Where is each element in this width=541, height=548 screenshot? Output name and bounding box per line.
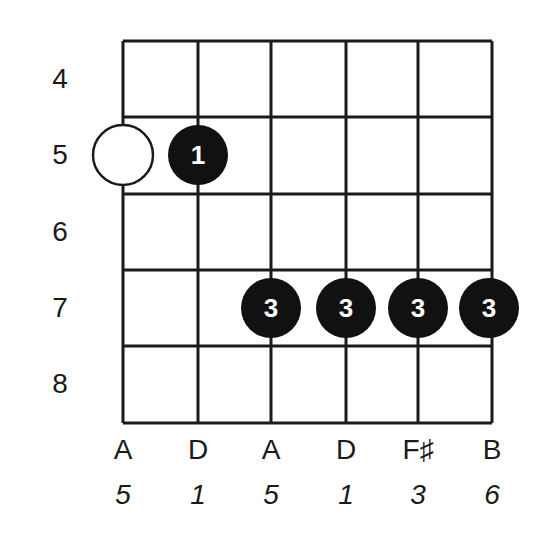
- fret-number: 5: [40, 141, 80, 169]
- string-interval: 1: [168, 481, 228, 509]
- finger-label: 3: [398, 295, 438, 321]
- string-note: A: [241, 436, 301, 464]
- string-note: B: [462, 436, 522, 464]
- open-circle-marker: [93, 125, 153, 185]
- finger-label: 1: [178, 142, 218, 168]
- string-interval: 1: [316, 481, 376, 509]
- string-interval: 3: [388, 481, 448, 509]
- finger-label: 3: [469, 295, 509, 321]
- string-note: D: [316, 436, 376, 464]
- fret-number: 6: [40, 218, 80, 246]
- fret-number: 8: [40, 370, 80, 398]
- string-note: A: [93, 436, 153, 464]
- finger-label: 3: [251, 295, 291, 321]
- finger-label: 3: [326, 295, 366, 321]
- fret-number: 7: [40, 294, 80, 322]
- fretboard-grid: [0, 0, 541, 548]
- string-note: F♯: [388, 436, 448, 464]
- string-interval: 5: [93, 481, 153, 509]
- string-interval: 6: [462, 481, 522, 509]
- string-note: D: [168, 436, 228, 464]
- string-interval: 5: [241, 481, 301, 509]
- fret-number: 4: [40, 65, 80, 93]
